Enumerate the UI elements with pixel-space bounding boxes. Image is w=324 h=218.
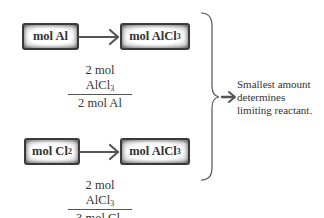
right-arrow-icon	[222, 92, 235, 102]
conclusion-text: Smallest amount determines limiting reac…	[237, 78, 312, 117]
right-arrow-icon	[79, 30, 118, 44]
conclusion-line: Smallest amount	[237, 78, 312, 91]
conclusion-line: limiting reactant.	[237, 104, 312, 117]
right-arrow-icon	[80, 145, 118, 159]
conclusion-line: determines	[237, 91, 312, 104]
right-curly-brace	[201, 13, 219, 180]
